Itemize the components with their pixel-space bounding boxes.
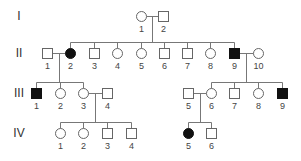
unaffected-female-symbol-iii-3 bbox=[78, 88, 89, 99]
pedigree-chart: IIIIIIIV 1212345678910123456789123456 bbox=[0, 0, 301, 161]
individual-number: 8 bbox=[256, 101, 261, 111]
individual-number: 9 bbox=[232, 61, 237, 71]
unaffected-female-symbol-iv-1 bbox=[55, 128, 66, 139]
unaffected-male-symbol-ii-1 bbox=[42, 48, 53, 59]
unaffected-female-symbol-i-1 bbox=[136, 11, 147, 22]
individual-number: 4 bbox=[105, 101, 110, 111]
affected-female-symbol-ii-2 bbox=[65, 48, 76, 59]
generation-label: II bbox=[16, 46, 23, 60]
individual-number: 3 bbox=[92, 61, 97, 71]
unaffected-female-symbol-iii-2 bbox=[55, 88, 66, 99]
unaffected-male-symbol-i-2 bbox=[158, 11, 169, 22]
individual-number: 5 bbox=[139, 61, 144, 71]
individual-number: 1 bbox=[34, 101, 39, 111]
individual-number: 7 bbox=[232, 101, 237, 111]
individual-number: 6 bbox=[209, 141, 214, 151]
individual-number: 3 bbox=[105, 141, 110, 151]
individual-number: 2 bbox=[58, 101, 63, 111]
unaffected-male-symbol-iii-7 bbox=[229, 88, 240, 99]
unaffected-female-symbol-ii-10 bbox=[253, 48, 264, 59]
unaffected-female-symbol-ii-5 bbox=[136, 48, 147, 59]
individual-number: 4 bbox=[115, 61, 120, 71]
generation-label: IV bbox=[13, 126, 24, 140]
unaffected-female-symbol-iii-8 bbox=[253, 88, 264, 99]
individual-number: 5 bbox=[186, 141, 191, 151]
individual-number: 9 bbox=[280, 101, 285, 111]
unaffected-female-symbol-iii-6 bbox=[206, 88, 217, 99]
affected-male-symbol-iii-1 bbox=[31, 88, 42, 99]
unaffected-male-symbol-ii-6 bbox=[159, 48, 170, 59]
unaffected-female-symbol-ii-4 bbox=[112, 48, 123, 59]
individual-number: 7 bbox=[185, 61, 190, 71]
individual-number: 2 bbox=[161, 24, 166, 34]
unaffected-male-symbol-ii-7 bbox=[182, 48, 193, 59]
individual-number: 1 bbox=[58, 141, 63, 151]
pedigree-lines bbox=[0, 0, 301, 161]
generation-label: III bbox=[14, 86, 24, 100]
affected-female-symbol-iv-5 bbox=[183, 128, 194, 139]
individual-number: 4 bbox=[129, 141, 134, 151]
individual-number: 2 bbox=[68, 61, 73, 71]
individual-number: 1 bbox=[45, 61, 50, 71]
unaffected-male-symbol-iv-4 bbox=[126, 128, 137, 139]
individual-number: 6 bbox=[209, 101, 214, 111]
individual-number: 3 bbox=[81, 101, 86, 111]
individual-number: 6 bbox=[162, 61, 167, 71]
generation-label: I bbox=[17, 9, 20, 23]
unaffected-male-symbol-iii-4 bbox=[102, 88, 113, 99]
unaffected-female-symbol-ii-8 bbox=[205, 48, 216, 59]
affected-male-symbol-ii-9 bbox=[229, 48, 240, 59]
individual-number: 2 bbox=[81, 141, 86, 151]
individual-number: 8 bbox=[208, 61, 213, 71]
unaffected-male-symbol-iii-5 bbox=[183, 88, 194, 99]
individual-number: 10 bbox=[253, 61, 263, 71]
unaffected-female-symbol-iv-2 bbox=[78, 128, 89, 139]
unaffected-male-symbol-iv-3 bbox=[102, 128, 113, 139]
affected-male-symbol-iii-9 bbox=[277, 88, 288, 99]
individual-number: 1 bbox=[139, 24, 144, 34]
unaffected-male-symbol-iv-6 bbox=[206, 128, 217, 139]
unaffected-male-symbol-ii-3 bbox=[89, 48, 100, 59]
individual-number: 5 bbox=[186, 101, 191, 111]
